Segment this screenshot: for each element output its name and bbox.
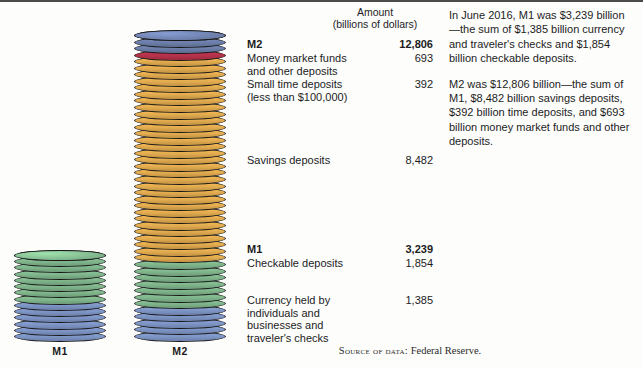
m1-disks	[14, 250, 106, 342]
explanatory-text: In June 2016, M1 was $3,239 billion—the …	[449, 8, 635, 160]
row-amount: 392	[365, 78, 433, 91]
row-label: Checkable deposits	[247, 257, 367, 270]
row-amount: 8,482	[365, 154, 433, 167]
row-label: Small time deposits (less than $100,000)	[247, 78, 367, 103]
m2-coin-stack	[134, 30, 226, 342]
source-prefix: Source of data:	[339, 345, 408, 356]
row-amount: 1,385	[365, 294, 433, 307]
row-label: M2	[247, 38, 367, 51]
figure-container: M1 M2 Amount (billions of dollars) M2 12…	[0, 0, 643, 369]
m1-coin-stack	[14, 250, 106, 342]
row-label: Money market funds and other deposits	[247, 52, 367, 77]
row-amount: 12,806	[365, 38, 433, 51]
coin-stack-top-cap	[134, 30, 226, 41]
row-label: M1	[247, 243, 367, 256]
source-note: Source of data: Federal Reserve.	[240, 345, 580, 356]
row-amount: 1,854	[365, 257, 433, 270]
amount-table: Amount (billions of dollars) M2 12,806 M…	[239, 2, 439, 369]
m2-disks	[134, 30, 226, 342]
row-amount: 3,239	[365, 243, 433, 256]
source-value: Federal Reserve.	[411, 345, 482, 356]
axis-label-m2: M2	[134, 345, 226, 357]
row-label: Currency held by individuals and busines…	[247, 294, 367, 344]
amount-header-line2: (billions of dollars)	[317, 18, 433, 30]
coin-stack-chart: M1 M2	[0, 2, 240, 369]
row-amount: 693	[365, 52, 433, 65]
narrative-paragraph-2: M2 was $12,806 billion—the sum of M1, $8…	[449, 77, 635, 149]
amount-column-header: Amount (billions of dollars)	[365, 6, 433, 31]
coin-stack-top-cap	[14, 250, 106, 261]
narrative-paragraph-1: In June 2016, M1 was $3,239 billion—the …	[449, 8, 635, 66]
row-label: Savings deposits	[247, 154, 367, 167]
amount-header-line1: Amount	[317, 6, 433, 18]
axis-label-m1: M1	[14, 345, 106, 357]
